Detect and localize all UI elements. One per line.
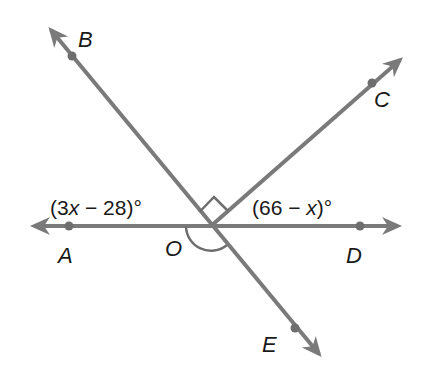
label-a: A [56, 243, 73, 268]
label-e: E [262, 332, 277, 357]
angle-right-suffix: )° [317, 196, 332, 219]
label-o: O [165, 236, 182, 261]
right-angle-mark [200, 197, 229, 212]
point-d [356, 222, 365, 231]
angle-left-prefix: (3 [50, 196, 69, 219]
point-a [65, 222, 74, 231]
line-be [51, 30, 319, 354]
point-b [68, 52, 77, 61]
angle-left-suffix: − 28)° [79, 196, 142, 219]
angle-right-prefix: (66 − [252, 196, 306, 219]
label-c: C [374, 87, 390, 112]
angle-label-right: (66 − x)° [252, 196, 332, 219]
angle-label-left: (3x − 28)° [50, 196, 142, 219]
point-e [291, 324, 300, 333]
label-d: D [346, 243, 362, 268]
geometry-diagram: A B C D E O (3x − 28)° (66 − x)° [0, 0, 423, 383]
label-b: B [78, 27, 93, 52]
